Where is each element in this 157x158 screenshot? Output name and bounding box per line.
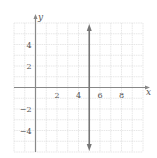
arrow-down-icon — [87, 144, 92, 151]
axes — [14, 14, 150, 152]
x-tick-label: 4 — [76, 91, 81, 100]
coordinate-plane: 246842−2−4 x y — [0, 0, 157, 158]
x-tick-label: 8 — [119, 91, 124, 100]
y-tick-label: −2 — [20, 105, 32, 114]
y-tick-label: 2 — [26, 62, 31, 71]
y-axis-label: y — [37, 12, 44, 22]
y-axis-arrow-icon — [34, 14, 38, 19]
x-tick-label: 2 — [54, 91, 59, 100]
y-tick-label: −4 — [20, 127, 32, 136]
x-axis-label: x — [146, 87, 151, 97]
x-tick-label: 6 — [97, 91, 102, 100]
arrow-up-icon — [87, 24, 92, 31]
y-tick-label: 4 — [26, 41, 31, 50]
